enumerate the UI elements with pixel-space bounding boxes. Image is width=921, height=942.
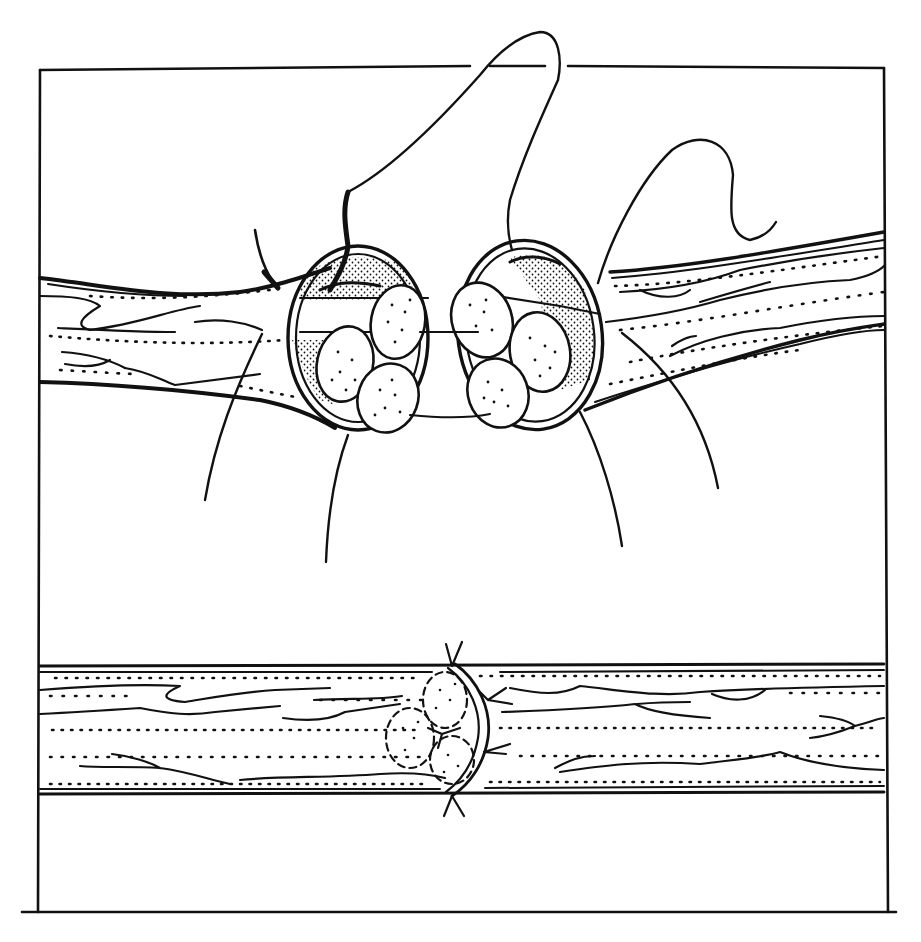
suture-thread-left-outer	[205, 334, 262, 500]
figure-frame	[22, 66, 896, 912]
proximal-nerve-stump	[40, 268, 335, 500]
nerve-repair-diagram	[0, 0, 921, 942]
fascicles-left	[310, 281, 431, 441]
suture-loop	[330, 32, 560, 290]
diagram-canvas	[0, 0, 921, 942]
suture-knot	[444, 796, 464, 816]
suture-needle-curve	[255, 230, 278, 288]
suture-thread-right-inner	[580, 412, 622, 546]
suture-knot	[446, 642, 462, 666]
suture-thread-left-inner	[326, 435, 348, 562]
distal-nerve-stump	[585, 232, 884, 488]
